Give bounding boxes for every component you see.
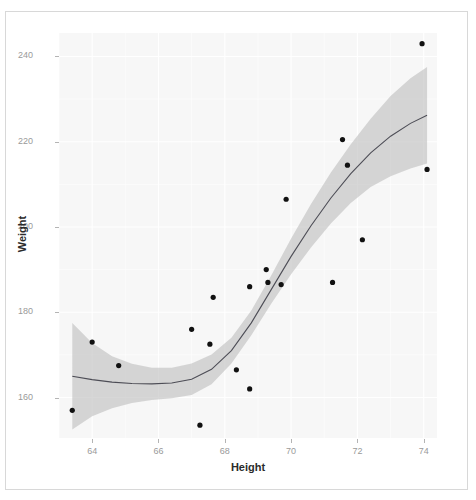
- x-tick-mark: [291, 439, 292, 443]
- data-point: [265, 280, 270, 285]
- x-tick-label: 66: [138, 447, 178, 456]
- y-tick-mark: [55, 227, 59, 228]
- scatter-plot-figure: 160180200220240 646668707274 Height Weig…: [0, 0, 476, 500]
- x-tick-label: 74: [404, 447, 444, 456]
- x-tick-label: 64: [72, 447, 112, 456]
- data-point: [345, 163, 350, 168]
- x-tick-mark: [158, 439, 159, 443]
- data-point: [340, 137, 345, 142]
- x-tick-mark: [424, 439, 425, 443]
- plot-data-layer: [59, 33, 437, 438]
- data-point: [189, 327, 194, 332]
- data-point: [419, 41, 424, 46]
- x-tick-label: 72: [337, 447, 377, 456]
- x-axis-title: Height: [59, 461, 437, 473]
- data-point: [211, 295, 216, 300]
- y-tick-mark: [55, 56, 59, 57]
- x-tick-label: 68: [205, 447, 245, 456]
- data-point: [197, 423, 202, 428]
- data-point: [279, 282, 284, 287]
- x-tick-label: 70: [271, 447, 311, 456]
- data-point: [247, 386, 252, 391]
- x-tick-mark: [92, 439, 93, 443]
- y-tick-label: 180: [0, 307, 33, 316]
- data-point: [360, 237, 365, 242]
- x-tick-mark: [357, 439, 358, 443]
- x-tick-mark: [225, 439, 226, 443]
- data-point: [70, 408, 75, 413]
- y-tick-mark: [55, 142, 59, 143]
- y-tick-mark: [55, 312, 59, 313]
- y-tick-label: 240: [0, 51, 33, 60]
- data-point: [264, 267, 269, 272]
- data-point: [90, 339, 95, 344]
- data-point: [247, 284, 252, 289]
- data-point: [234, 367, 239, 372]
- plot-panel: [59, 33, 437, 438]
- data-point: [424, 167, 429, 172]
- data-point: [284, 197, 289, 202]
- data-point: [207, 342, 212, 347]
- y-tick-mark: [55, 398, 59, 399]
- y-tick-label: 160: [0, 393, 33, 402]
- y-tick-label: 220: [0, 137, 33, 146]
- data-point: [330, 280, 335, 285]
- y-axis-title: Weight: [16, 179, 28, 289]
- data-point: [116, 363, 121, 368]
